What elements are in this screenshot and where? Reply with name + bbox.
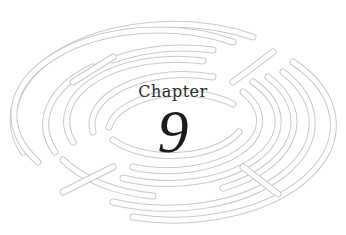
- chapter-number: 9: [0, 100, 346, 162]
- chapter-heading: Chapter 9: [0, 0, 346, 235]
